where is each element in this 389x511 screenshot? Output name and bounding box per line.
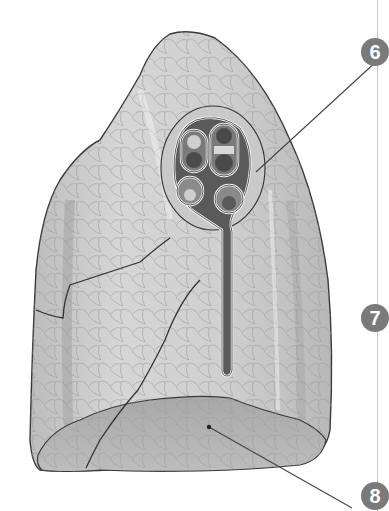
label-badge-8: 8 [361,482,389,510]
page-edge-line [377,0,378,511]
label-badge-7: 7 [361,304,389,332]
label-badge-6: 6 [361,38,389,66]
